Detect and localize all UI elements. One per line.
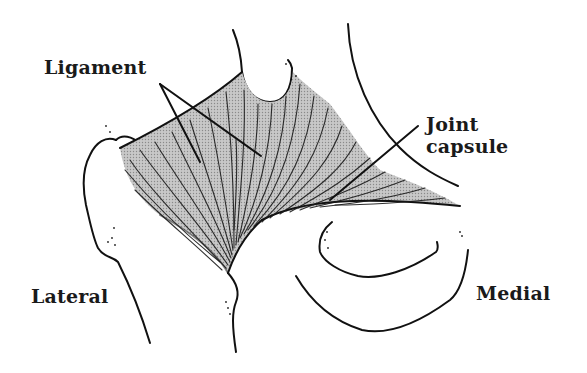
lateral-label: Lateral (31, 285, 108, 307)
ligament-region (120, 72, 460, 273)
joint-capsule-label-line1: Joint (426, 113, 508, 135)
joint-capsule-label: Joint capsule (426, 113, 508, 157)
joint-capsule-label-line2: capsule (426, 135, 508, 157)
ligament-label: Ligament (44, 56, 147, 78)
medial-label: Medial (476, 282, 550, 304)
medial-bone (228, 222, 468, 352)
